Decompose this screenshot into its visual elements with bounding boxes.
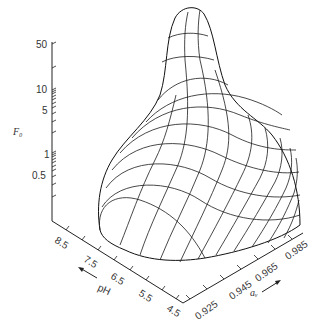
y-axis-arrow <box>262 282 278 292</box>
x-tick-4.5: 4.5 <box>165 302 183 319</box>
z-tick-1: 1 <box>44 149 50 160</box>
z-tick-10: 10 <box>36 84 48 95</box>
x-tick-5.5: 5.5 <box>137 287 155 304</box>
y-arrowhead-icon <box>275 280 281 285</box>
surface-plot: 50 10 5 1 0.5 F₀ 8.5 7.5 6.5 5.5 4.5 pH … <box>0 0 323 325</box>
z-axis-ticks <box>52 42 56 197</box>
z-tick-0.5: 0.5 <box>32 170 46 181</box>
x-arrowhead-icon <box>78 267 84 272</box>
y-tick-0.985: 0.985 <box>283 238 310 262</box>
y-axis-label: aᵥ <box>250 287 258 298</box>
y-tick-0.925: 0.925 <box>193 298 220 322</box>
z-tick-50: 50 <box>36 39 48 50</box>
x-tick-6.5: 6.5 <box>109 270 127 287</box>
y-tick-0.965: 0.965 <box>253 260 280 284</box>
x-axis-label: pH <box>96 282 112 297</box>
z-axis-label: F₀ <box>12 126 23 137</box>
z-tick-5: 5 <box>42 105 48 116</box>
x-tick-8.5: 8.5 <box>53 234 71 251</box>
x-tick-7.5: 7.5 <box>82 253 100 270</box>
